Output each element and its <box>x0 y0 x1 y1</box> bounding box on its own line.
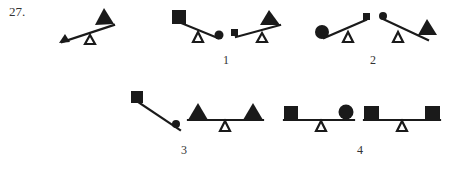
large-triangle-icon <box>95 8 114 25</box>
square-icon <box>131 91 143 103</box>
small-circle-icon <box>379 12 387 20</box>
option2-seesaw-right <box>379 12 437 42</box>
option3-seesaw-right <box>188 103 263 131</box>
small-square-icon <box>231 29 238 36</box>
option3-seesaw-left <box>131 91 180 130</box>
option4-seesaw-left <box>284 105 354 132</box>
option2-seesaw-left <box>315 13 370 42</box>
fulcrum-icon <box>257 33 267 42</box>
small-triangle-icon <box>59 34 70 43</box>
large-triangle-icon <box>418 19 437 35</box>
beam <box>324 20 366 38</box>
seesaw-figures <box>0 0 469 174</box>
square-icon <box>364 106 379 120</box>
fulcrum-icon <box>397 121 407 131</box>
option-label-1[interactable]: 1 <box>223 53 229 68</box>
option-label-3[interactable]: 3 <box>181 143 187 158</box>
stem-seesaw <box>59 8 114 44</box>
circle-icon <box>339 105 354 120</box>
square-icon <box>425 106 440 120</box>
option-label-2[interactable]: 2 <box>370 53 376 68</box>
fulcrum-icon <box>393 32 403 42</box>
fulcrum-icon <box>316 121 326 131</box>
fulcrum-icon <box>193 32 203 42</box>
stem-fulcrum-icon <box>85 35 95 44</box>
small-square-icon <box>363 13 370 20</box>
large-triangle-icon <box>188 103 208 120</box>
square-icon <box>284 106 298 120</box>
option1-seesaw-right <box>231 10 280 42</box>
large-circle-icon <box>315 25 329 39</box>
small-circle-icon <box>172 120 180 128</box>
beam <box>236 25 280 37</box>
option1-seesaw-left <box>172 10 224 42</box>
option4-seesaw-right <box>364 106 440 131</box>
large-triangle-icon <box>260 10 280 25</box>
large-triangle-icon <box>243 103 263 120</box>
large-square-icon <box>172 10 186 24</box>
fulcrum-icon <box>220 121 230 131</box>
option-label-4[interactable]: 4 <box>357 143 363 158</box>
fulcrum-icon <box>343 32 353 42</box>
small-circle-icon <box>215 31 224 40</box>
